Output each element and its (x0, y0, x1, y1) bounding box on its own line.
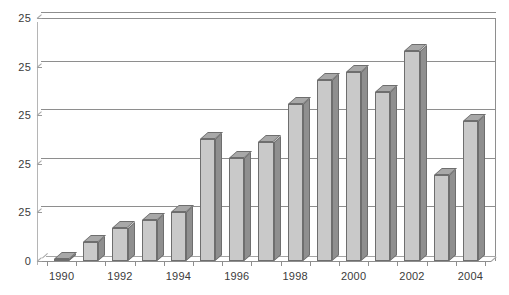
bar (463, 121, 478, 261)
bar (83, 242, 98, 261)
bar-front-face (375, 92, 390, 261)
y-axis-tick-mark (37, 212, 42, 213)
bar-front-face (229, 158, 244, 261)
x-axis-tick-label: 1998 (283, 270, 308, 282)
bar-front-face (404, 51, 419, 261)
x-axis-tick-mark (135, 261, 136, 266)
bar (200, 139, 215, 261)
bar-side-face (186, 206, 193, 261)
bar (258, 142, 273, 261)
x-axis-tick-mark (251, 261, 252, 266)
x-axis-tick-label: 2002 (399, 270, 424, 282)
x-axis-tick-mark (339, 261, 340, 266)
bar-side-face (157, 214, 164, 261)
x-axis-tick-label: 2000 (341, 270, 366, 282)
bar-front-face (54, 259, 69, 261)
bar-front-face (288, 104, 303, 261)
bar-front-face (258, 142, 273, 261)
x-axis-tick-mark (427, 261, 428, 266)
bar-side-face (244, 152, 251, 261)
x-axis-tick-mark (456, 261, 457, 266)
x-axis-tick-mark (397, 261, 398, 266)
x-axis-tick-label: 1996 (224, 270, 249, 282)
bar-front-face (112, 228, 127, 261)
bar-front-face (83, 242, 98, 261)
bar-side-face (274, 136, 281, 261)
x-axis-tick-label: 2004 (458, 270, 483, 282)
bar-side-face (390, 86, 397, 261)
x-axis-tick-mark (76, 261, 77, 266)
x-axis-tick-label: 1994 (166, 270, 191, 282)
x-axis-tick-mark (164, 261, 165, 266)
x-axis-tick-mark (222, 261, 223, 266)
bar (54, 259, 69, 261)
bar-side-face (361, 66, 368, 261)
x-axis-tick-mark (310, 261, 311, 266)
bar-front-face (142, 220, 157, 261)
bar-side-face (303, 97, 310, 261)
x-axis-tick-mark (193, 261, 194, 266)
bar (404, 51, 419, 261)
bar (434, 175, 449, 261)
bar-front-face (463, 121, 478, 261)
x-axis-tick-mark (105, 261, 106, 266)
bar-front-face (434, 175, 449, 261)
bar-front-face (346, 72, 361, 261)
bar (112, 228, 127, 261)
bar-side-face (420, 45, 427, 261)
bar-side-face (332, 74, 339, 261)
bar-side-face (215, 132, 222, 261)
bar-side-face (478, 115, 485, 261)
bar-chart: 02525252525 1990199219941996199820002002… (0, 0, 509, 295)
bar (171, 212, 186, 261)
bar (375, 92, 390, 261)
bar-front-face (171, 212, 186, 261)
bar (142, 220, 157, 261)
bar (288, 104, 303, 261)
x-axis-tick-mark (281, 261, 282, 266)
bars-layer (0, 0, 509, 295)
bar-side-face (449, 169, 456, 261)
bar-side-face (128, 222, 135, 261)
x-axis-tick-mark (485, 261, 486, 266)
x-axis-tick-label: 1992 (107, 270, 132, 282)
x-axis-tick-mark (368, 261, 369, 266)
bar (229, 158, 244, 261)
x-axis-tick-mark (47, 261, 48, 266)
bar (317, 80, 332, 261)
x-axis-tick-label: 1990 (49, 270, 74, 282)
bar-front-face (200, 139, 215, 261)
bar-front-face (317, 80, 332, 261)
bar (346, 72, 361, 261)
